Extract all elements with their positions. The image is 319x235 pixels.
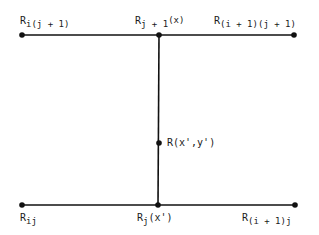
label-middle: R(x',y') xyxy=(167,138,215,148)
label-bottom-left: Rij xyxy=(20,213,37,223)
label-argument: (x) xyxy=(168,15,184,25)
node-bottom-left-dot xyxy=(19,202,25,208)
label-subscript: j + 1 xyxy=(141,19,168,29)
node-bottom-right-dot xyxy=(292,202,298,208)
label-bottom-middle: Rj(x') xyxy=(137,213,173,223)
node-bottom-middle-dot xyxy=(155,202,161,208)
label-bottom-right: R(i + 1)j xyxy=(242,213,291,223)
node-middle-dot xyxy=(156,140,162,146)
label-subscript: i(j + 1) xyxy=(26,19,69,29)
node-top-right-dot xyxy=(291,32,297,38)
node-top-middle-dot xyxy=(156,32,162,38)
label-subscript: (i + 1)j xyxy=(248,216,291,226)
label-top-middle: Rj + 1(x) xyxy=(135,16,184,26)
vertical-edge xyxy=(158,35,159,205)
node-top-left-dot xyxy=(19,32,25,38)
grid-interpolation-diagram xyxy=(0,0,319,235)
label-top-left: Ri(j + 1) xyxy=(20,16,69,26)
label-main: R(x',y') xyxy=(167,137,215,148)
label-subscript: ij xyxy=(26,216,37,226)
label-subscript: j xyxy=(143,216,148,226)
label-subscript: (i + 1)(j + 1) xyxy=(220,19,296,29)
label-argument: (x') xyxy=(148,212,172,223)
label-top-right: R(i + 1)(j + 1) xyxy=(214,16,296,26)
